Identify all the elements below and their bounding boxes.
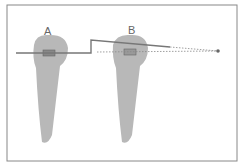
diagram [0, 0, 242, 165]
label-a: A [44, 25, 51, 37]
convergence-point [216, 49, 220, 53]
label-b: B [128, 24, 135, 36]
